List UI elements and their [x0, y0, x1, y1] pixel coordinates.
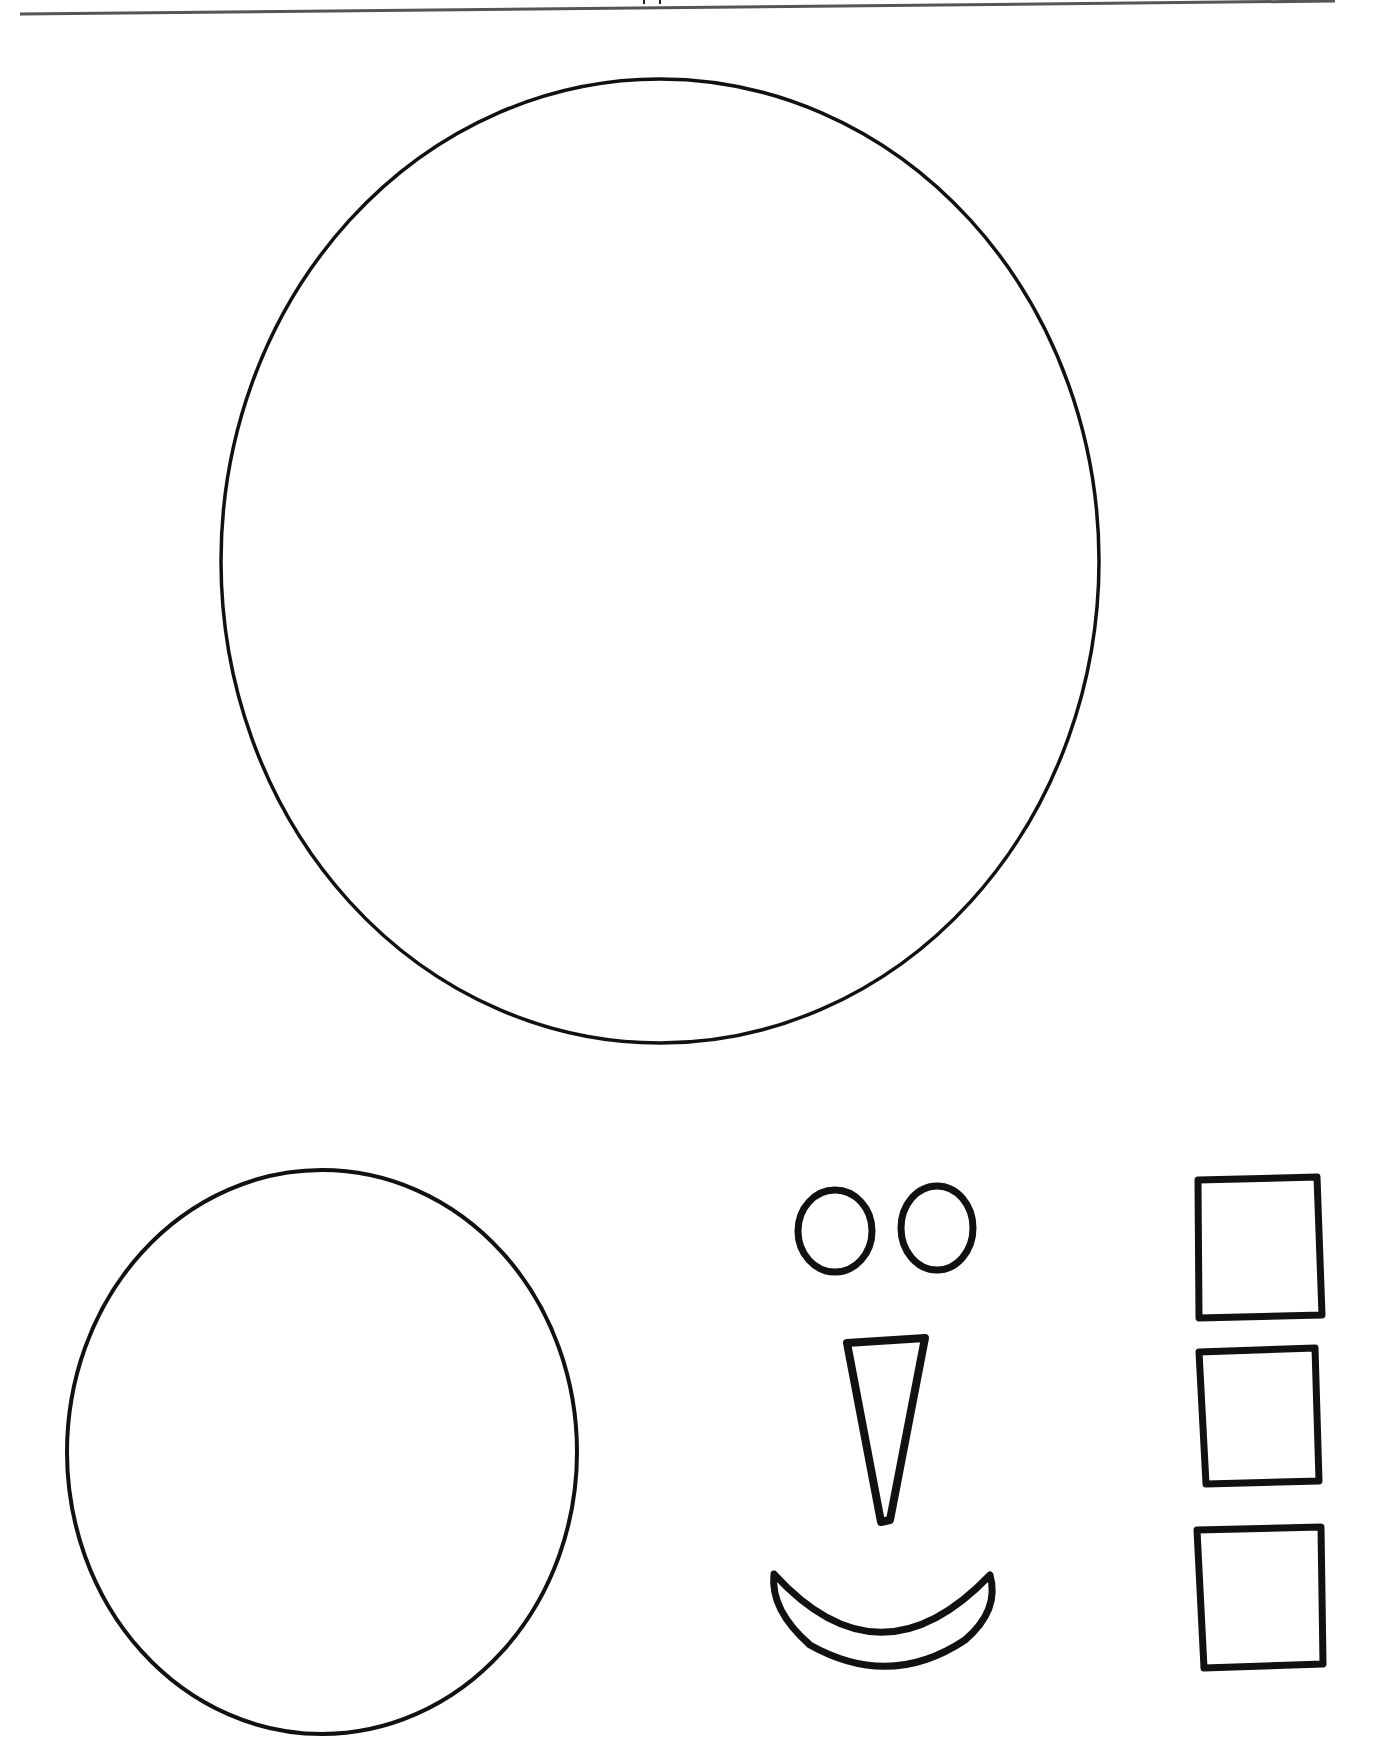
square-3: [1197, 1527, 1323, 1668]
header-rule: [20, 1, 1335, 14]
small-circle: [67, 1170, 577, 1734]
template-page: [0, 0, 1379, 1745]
eye-right: [901, 1186, 973, 1270]
large-circle: [221, 79, 1099, 1043]
smile: [774, 1574, 993, 1666]
nose-triangle: [847, 1338, 925, 1522]
square-1: [1198, 1177, 1322, 1318]
cutout-drawing: [0, 0, 1379, 1745]
eye-left: [798, 1190, 872, 1272]
square-2: [1199, 1348, 1319, 1484]
